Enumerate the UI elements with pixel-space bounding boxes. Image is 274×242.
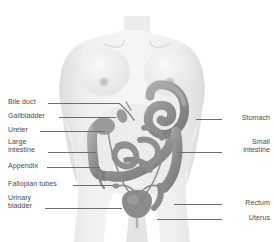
label-rectum: Rectum bbox=[245, 199, 270, 207]
leader-line-stomach bbox=[196, 119, 222, 120]
label-appendix: Appendix bbox=[8, 162, 38, 170]
label-urinary-bladder: Urinary bladder bbox=[8, 194, 32, 211]
label-ureter: Ureter bbox=[8, 126, 28, 134]
label-uterus: Uterus bbox=[249, 214, 270, 222]
anatomy-diagram: Bile ductGallbladderUreterLarge intestin… bbox=[0, 0, 274, 242]
leader-line-gallbladder bbox=[59, 117, 116, 118]
leader-line-urinary-bladder bbox=[45, 208, 122, 209]
label-large-intestine: Large intestine bbox=[8, 138, 35, 155]
label-small-intestine: Small intestine bbox=[243, 138, 270, 155]
leader-line-large-intestine bbox=[48, 152, 96, 153]
leader-line-bile-duct bbox=[48, 103, 120, 104]
leader-line-uterus bbox=[157, 219, 222, 220]
leader-line-appendix bbox=[47, 167, 100, 168]
leader-line-ureter bbox=[40, 131, 105, 132]
label-fallopian-tubes: Fallopian tubes bbox=[8, 180, 57, 188]
leader-line-rectum bbox=[174, 204, 222, 205]
label-stomach: Stomach bbox=[242, 114, 270, 122]
label-bile-duct: Bile duct bbox=[8, 98, 36, 106]
label-gallbladder: Gallbladder bbox=[8, 112, 45, 120]
leader-line-small-intestine bbox=[178, 152, 222, 153]
leader-line-fallopian-tubes bbox=[73, 185, 113, 186]
anatomy-illustration bbox=[0, 0, 274, 242]
